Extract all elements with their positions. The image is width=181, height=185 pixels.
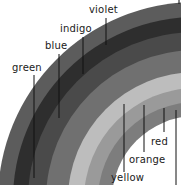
label-green: green	[12, 63, 42, 73]
label-indigo: indigo	[60, 24, 92, 34]
label-yellow: yellow	[111, 173, 144, 183]
label-red: red	[151, 137, 168, 147]
label-blue: blue	[45, 41, 67, 51]
label-violet: violet	[89, 5, 118, 15]
label-orange: orange	[129, 155, 165, 165]
rainbow-diagram: violet indigo blue green red orange yell…	[0, 0, 181, 185]
